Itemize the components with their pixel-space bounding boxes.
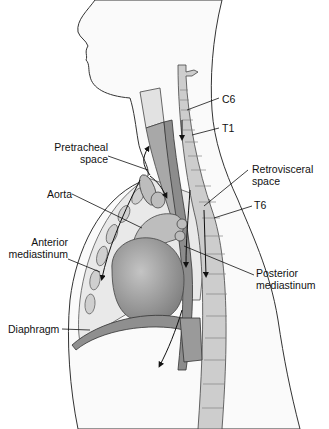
label-posterior-1: Posterior <box>256 267 298 279</box>
label-aorta: Aorta <box>47 188 72 200</box>
heart <box>112 238 184 322</box>
anatomy-diagram: C6 T1 Pretracheal space Retrovisceral sp… <box>0 0 329 429</box>
label-anterior-1: Anterior <box>2 236 68 248</box>
label-pretracheal-2: space <box>48 153 108 165</box>
label-retrovisceral-2: space <box>252 175 280 187</box>
label-posterior-2: mediastinum <box>256 279 316 291</box>
label-t6: T6 <box>254 199 266 211</box>
anatomy-illustration <box>0 0 329 429</box>
label-diaphragm: Diaphragm <box>8 323 59 335</box>
label-anterior-2: mediastinum <box>2 248 68 260</box>
label-c6: C6 <box>222 93 235 105</box>
label-retrovisceral-1: Retrovisceral <box>252 163 313 175</box>
label-pretracheal-1: Pretracheal <box>48 141 108 153</box>
label-t1: T1 <box>222 122 234 134</box>
gastric-junction <box>180 318 202 362</box>
